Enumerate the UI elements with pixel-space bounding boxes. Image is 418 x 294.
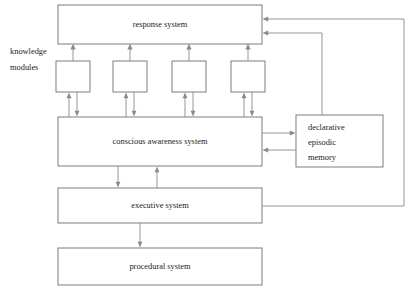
node-knowledge-module-2[interactable] bbox=[113, 61, 147, 92]
edge-module1-to-response bbox=[70, 44, 75, 62]
label-memory-line-2: episodic bbox=[308, 139, 336, 147]
edge-executive-to-response-routed bbox=[262, 17, 404, 206]
edge-memory-to-conscious bbox=[263, 148, 297, 153]
label-memory-line-3: memory bbox=[308, 154, 336, 162]
label-knowledge-modules-line-1: knowledge bbox=[10, 48, 47, 56]
edge-conscious-to-executive bbox=[116, 166, 121, 188]
node-knowledge-module-1[interactable] bbox=[56, 61, 90, 92]
edge-executive-to-procedural bbox=[138, 223, 143, 248]
edge-module3-to-response bbox=[186, 44, 191, 62]
edge-conscious-module2-bidirectional bbox=[124, 92, 137, 117]
label-procedural-system: procedural system bbox=[129, 263, 190, 271]
edge-module4-to-response bbox=[245, 44, 250, 62]
label-response-system: response system bbox=[133, 21, 188, 29]
node-knowledge-module-3[interactable] bbox=[172, 61, 206, 92]
diagram-canvas: response system conscious awareness syst… bbox=[0, 0, 418, 294]
edge-conscious-to-memory bbox=[262, 131, 296, 136]
diagram-svg bbox=[0, 0, 418, 294]
node-knowledge-module-4[interactable] bbox=[231, 61, 265, 92]
label-memory-line-1: declarative bbox=[308, 124, 345, 132]
label-executive-system: executive system bbox=[131, 202, 188, 210]
edge-conscious-module4-bidirectional bbox=[242, 92, 255, 117]
edge-module2-to-response bbox=[127, 44, 132, 62]
edge-memory-to-response-routed bbox=[263, 31, 323, 115]
label-knowledge-modules-line-2: modules bbox=[10, 64, 38, 72]
edge-executive-to-conscious bbox=[155, 167, 160, 189]
edge-conscious-module1-bidirectional bbox=[67, 92, 80, 117]
label-conscious-awareness-system: conscious awareness system bbox=[113, 138, 208, 146]
edge-conscious-module3-bidirectional bbox=[183, 92, 196, 117]
